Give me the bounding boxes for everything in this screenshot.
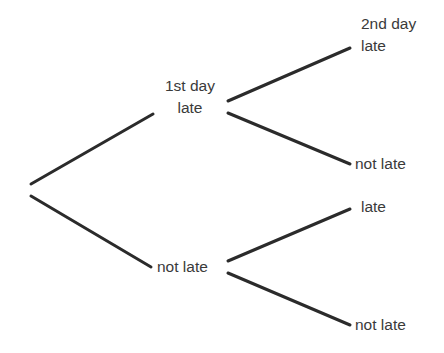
node-second-day-late-line1: 2nd day [361, 13, 416, 35]
edge-first-late-to-second-late [228, 48, 350, 101]
node-first-day-not-late: not late [157, 256, 208, 278]
edge-first-late-to-second-not-late [228, 113, 350, 164]
node-first-day-late-line2: late [158, 97, 222, 119]
edge-root-to-first-late [31, 114, 153, 184]
edge-root-to-first-not-late [31, 196, 151, 267]
node-second-day-late-after-late: 2nd day late [361, 13, 416, 57]
node-second-day-not-late-after-not-late: not late [355, 314, 406, 336]
node-second-day-late-line2: late [361, 35, 416, 57]
node-second-day-late-after-not-late: late [361, 196, 386, 218]
edge-first-not-late-to-second-late [228, 209, 350, 261]
node-second-day-not-late-after-late: not late [355, 153, 406, 175]
node-first-day-late: 1st day late [158, 75, 222, 119]
node-first-day-late-line1: 1st day [158, 75, 222, 97]
edge-first-not-late-to-second-not-late [228, 273, 350, 325]
